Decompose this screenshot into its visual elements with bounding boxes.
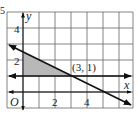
y-tick-4: 4 (14, 23, 20, 35)
x-axis-label: x (123, 78, 130, 92)
y-tick-2: 2 (14, 55, 20, 67)
x-tick-4: 4 (84, 96, 90, 108)
origin-label: O (10, 95, 19, 109)
y-axis-label: y (25, 9, 32, 23)
coordinate-graph: 5 y x O 4 2 2 4 (3, 1) (0, 0, 138, 114)
problem-number: 5 (0, 5, 5, 16)
x-tick-2: 2 (52, 96, 58, 108)
point-label: (3, 1) (72, 61, 96, 74)
